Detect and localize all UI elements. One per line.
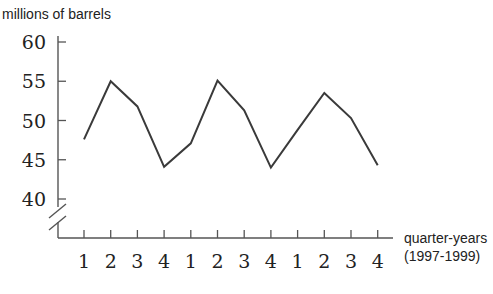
x-axis-label: quarter-years [404,230,487,246]
line-chart: millions of barrels 4045505560 123412341… [0,0,493,294]
x-tick-label: 4 [158,250,170,272]
x-tick-label: 1 [185,250,197,272]
y-tick-label: 50 [22,110,46,132]
x-tick-label: 1 [292,250,304,272]
x-tick-label: 4 [265,250,277,272]
y-axis [49,36,66,238]
x-ticks: 123412341234 [78,230,384,272]
x-axis-sublabel: (1997-1999) [404,248,480,264]
x-tick-label: 2 [211,250,223,272]
x-tick-label: 1 [78,250,90,272]
x-tick-label: 3 [131,250,143,272]
y-axis-label: millions of barrels [2,6,111,22]
y-tick-label: 55 [22,70,46,92]
x-tick-label: 2 [318,250,330,272]
x-tick-label: 4 [372,250,384,272]
data-line [84,81,378,168]
y-tick-label: 40 [22,188,46,210]
y-ticks: 4045505560 [22,31,66,210]
x-tick-label: 3 [345,250,357,272]
y-tick-label: 60 [22,31,46,53]
x-tick-label: 2 [105,250,117,272]
y-tick-label: 45 [22,149,46,171]
x-tick-label: 3 [238,250,250,272]
